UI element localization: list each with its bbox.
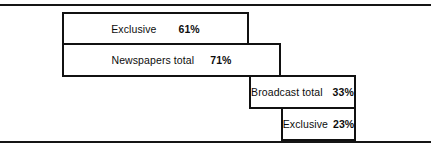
bar-value: 33% — [333, 86, 354, 98]
bar-label: Exclusive — [283, 118, 328, 130]
top-rule — [0, 4, 431, 6]
bottom-rule — [0, 141, 431, 143]
bar-label: Newspapers total — [111, 54, 194, 66]
bar-label: Exclusive — [111, 23, 156, 35]
bar-value: 23% — [333, 118, 354, 130]
bar-value: 61% — [178, 23, 199, 35]
bar-value: 71% — [210, 54, 231, 66]
figure-container: Exclusive 61% Newspapers total 71% Broad… — [0, 0, 431, 155]
bar-broadcast-total: Broadcast total 33% — [249, 75, 356, 109]
bar-newspapers-total: Newspapers total 71% — [62, 43, 281, 77]
bar-label: Broadcast total — [251, 86, 323, 98]
bar-exclusive-newspapers: Exclusive 61% — [62, 12, 249, 45]
bar-exclusive-broadcast: Exclusive 23% — [281, 107, 356, 141]
